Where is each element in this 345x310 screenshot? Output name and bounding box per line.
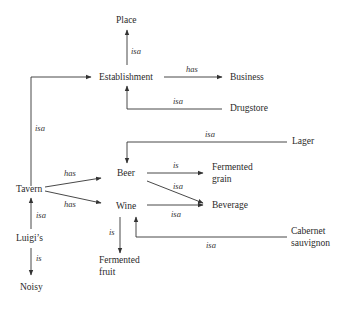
edge-label: isa	[36, 210, 46, 220]
edges	[31, 30, 287, 275]
edge-label: isa	[173, 181, 183, 191]
edge-label: is	[173, 160, 179, 170]
node-fermented-grain: Fermented	[212, 162, 253, 172]
node-fermented-fruit: Fermented	[99, 255, 140, 265]
node-place: Place	[116, 15, 137, 25]
node-luigis: Luigi’s	[16, 233, 43, 243]
edge-label: has	[64, 199, 77, 209]
nodes: Place Establishment Business Drugstore L…	[16, 15, 330, 292]
edge-label: isa	[131, 46, 141, 56]
node-beverage: Beverage	[212, 200, 248, 210]
node-fermented-grain-line2: grain	[212, 174, 232, 184]
node-wine: Wine	[116, 201, 136, 211]
node-beer: Beer	[117, 168, 136, 178]
edge-label: isa	[173, 96, 183, 106]
node-lager: Lager	[292, 136, 315, 146]
node-cabernet-sauvignon-line2: sauvignon	[291, 238, 330, 248]
node-cabernet-sauvignon: Cabernet	[291, 226, 326, 236]
edge-label: is	[36, 253, 42, 263]
edge-tavern-beer	[45, 178, 101, 187]
edge-label: has	[186, 64, 199, 74]
edge-cabernet-wine	[136, 217, 287, 237]
node-establishment: Establishment	[99, 72, 153, 82]
edge-label: isa	[206, 240, 216, 250]
node-drugstore: Drugstore	[230, 103, 268, 113]
semantic-network-diagram: isa has isa isa isa has has is isa isa i…	[0, 0, 345, 310]
edge-label: isa	[171, 209, 181, 219]
edge-label: isa	[35, 123, 45, 133]
edge-label: is	[109, 227, 115, 237]
edge-label: has	[64, 168, 77, 178]
node-fermented-fruit-line2: fruit	[99, 267, 116, 277]
node-tavern: Tavern	[16, 184, 42, 194]
node-noisy: Noisy	[20, 282, 43, 292]
edge-label: isa	[205, 129, 215, 139]
node-business: Business	[230, 72, 264, 82]
edge-lager-beer	[127, 142, 287, 163]
